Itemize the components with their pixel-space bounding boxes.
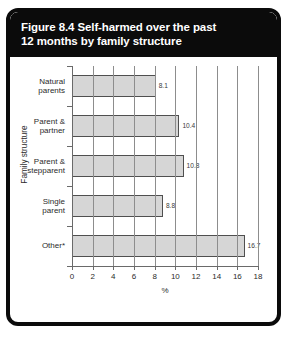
x-axis-tick xyxy=(217,266,218,270)
bar xyxy=(72,75,156,97)
bar-value-label: 8.8 xyxy=(166,202,175,209)
bar-value-label: 10.8 xyxy=(187,162,200,169)
category-label-line: Natural xyxy=(39,77,65,87)
bar-row: Other*16.7 xyxy=(72,226,258,266)
x-axis-title: % xyxy=(72,286,258,295)
category-label: Parent &stepparent xyxy=(6,146,65,186)
category-label: Other* xyxy=(6,226,65,266)
x-axis-tick-label: 16 xyxy=(233,272,242,281)
y-axis-tick xyxy=(67,66,72,67)
bar-value-label: 16.7 xyxy=(248,242,261,249)
x-axis-tick xyxy=(72,266,73,270)
x-axis-tick-label: 4 xyxy=(111,272,115,281)
bar-row: Naturalparents8.1 xyxy=(72,66,258,106)
bar-value-label: 8.1 xyxy=(159,82,168,89)
bar-value-label: 10.4 xyxy=(182,122,195,129)
x-axis-tick-label: 0 xyxy=(70,272,74,281)
category-label-line: Parent & xyxy=(34,117,65,127)
category-label: Singleparent xyxy=(6,186,65,226)
chart-area: Family structure Naturalparents8.1Parent… xyxy=(10,58,277,322)
x-axis-tick-label: 14 xyxy=(212,272,221,281)
category-label-line: Other* xyxy=(42,241,65,251)
bar-row: Singleparent8.8 xyxy=(72,186,258,226)
category-label-line: parents xyxy=(38,86,65,96)
figure-title-banner: Figure 8.4 Self-harmed over the past 12 … xyxy=(10,12,277,57)
bar xyxy=(72,115,179,137)
x-axis-tick xyxy=(113,266,114,270)
category-label-line: Parent & xyxy=(34,157,65,167)
category-label-line: Single xyxy=(43,197,65,207)
category-label-line: parent xyxy=(42,206,65,216)
x-axis-tick-label: 12 xyxy=(192,272,201,281)
y-axis-tick xyxy=(67,106,72,107)
x-axis-tick xyxy=(258,266,259,270)
bar xyxy=(72,155,184,177)
category-label: Naturalparents xyxy=(6,66,65,106)
x-axis-tick xyxy=(175,266,176,270)
gridline xyxy=(258,66,259,266)
category-label-line: partner xyxy=(40,126,65,136)
bar-row: Parent &stepparent10.8 xyxy=(72,146,258,186)
x-axis-tick xyxy=(134,266,135,270)
x-axis-tick xyxy=(155,266,156,270)
y-axis-tick xyxy=(67,266,72,267)
x-axis-tick-label: 2 xyxy=(90,272,94,281)
x-axis-spine xyxy=(72,266,258,267)
bar xyxy=(72,195,163,217)
figure-frame: Figure 8.4 Self-harmed over the past 12 … xyxy=(6,8,281,326)
x-axis-tick-label: 10 xyxy=(171,272,180,281)
bar-series: Naturalparents8.1Parent &partner10.4Pare… xyxy=(72,66,258,266)
plot-region: Naturalparents8.1Parent &partner10.4Pare… xyxy=(72,66,258,266)
y-axis-tick xyxy=(67,146,72,147)
y-axis-spine xyxy=(72,66,73,266)
bar xyxy=(72,235,245,257)
x-axis-tick-label: 6 xyxy=(132,272,136,281)
y-axis-tick xyxy=(67,186,72,187)
bar-row: Parent &partner10.4 xyxy=(72,106,258,146)
y-axis-tick xyxy=(67,226,72,227)
x-axis-tick-label: 8 xyxy=(152,272,156,281)
x-axis-tick xyxy=(237,266,238,270)
figure-title-line-1: Figure 8.4 Self-harmed over the past xyxy=(21,20,266,34)
x-axis-tick xyxy=(93,266,94,270)
figure-title-line-2: 12 months by family structure xyxy=(21,34,266,48)
x-axis-tick xyxy=(196,266,197,270)
category-label: Parent &partner xyxy=(6,106,65,146)
x-axis-tick-label: 18 xyxy=(254,272,263,281)
category-label-line: stepparent xyxy=(27,166,65,176)
